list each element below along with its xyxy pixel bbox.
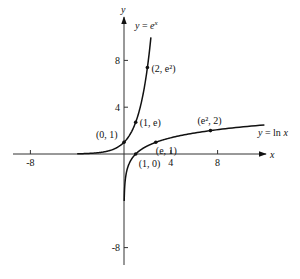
point-label: (1, 0): [139, 158, 161, 170]
exp-curve-label: y = ex: [134, 19, 159, 31]
y-tick-label: 4: [115, 102, 120, 113]
axes: x y: [13, 4, 275, 265]
point-label: (1, e): [140, 117, 161, 129]
data-point: [146, 66, 150, 70]
y-tick-label: 8: [115, 55, 120, 66]
point-label: (e², 2): [197, 115, 221, 127]
x-tick-label: 4: [168, 157, 173, 168]
chart: x y -848-848 y = exy = ln x(0, 1)(1, e)(…: [0, 0, 300, 279]
data-point: [154, 141, 158, 145]
x-tick-label: -8: [26, 157, 34, 168]
points: [122, 66, 212, 156]
y-tick-label: -8: [112, 242, 120, 253]
point-label: (2, e²): [151, 63, 175, 75]
data-point: [134, 120, 138, 124]
x-axis-label: x: [269, 149, 275, 160]
data-point: [209, 129, 213, 133]
y-axis-label: y: [120, 4, 126, 15]
data-point: [134, 152, 138, 156]
point-label: (0, 1): [96, 129, 118, 141]
x-tick-label: 8: [215, 157, 220, 168]
point-label: (e, 1): [156, 145, 177, 157]
data-point: [122, 141, 126, 145]
ln-curve-label: y = ln x: [257, 127, 288, 138]
labels: y = exy = ln x(0, 1)(1, e)(2, e²)(1, 0)(…: [96, 19, 288, 170]
